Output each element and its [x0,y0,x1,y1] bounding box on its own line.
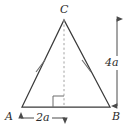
geometry-figure: C A B 4a 2a [0,0,135,131]
vertex-label-a: A [5,111,13,122]
half-base-dimension-label: 2a [35,112,51,123]
tick-mark-side-ac [36,60,45,72]
vertex-label-c: C [60,4,68,15]
triangle-outline [22,20,110,107]
vertex-label-b: B [112,111,120,122]
height-dimension-label: 4a [104,57,120,68]
right-angle-marker [53,96,64,107]
